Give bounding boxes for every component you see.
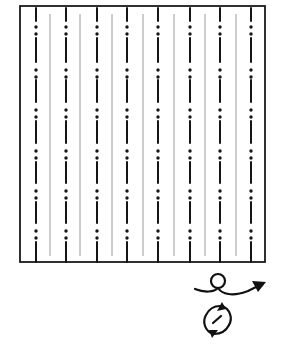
circular-arrows-icon [204, 302, 231, 338]
stitch-dot [95, 108, 98, 111]
stitch-dot [125, 32, 128, 35]
stitch-dot [218, 75, 221, 78]
stitch-dot [156, 75, 159, 78]
stitch-dot [156, 156, 159, 159]
stitch-dot [249, 68, 252, 71]
stitch-column [249, 8, 252, 262]
stitch-dot [156, 149, 159, 152]
stitch-dot [249, 25, 252, 28]
stitch-dot [95, 115, 98, 118]
stitch-dot [125, 75, 128, 78]
stitch-dot [34, 189, 37, 192]
stitch-dot [95, 189, 98, 192]
stitch-dot [249, 196, 252, 199]
stitch-dot [95, 149, 98, 152]
stitch-dot [188, 156, 191, 159]
stitch-dot [125, 236, 128, 239]
stitch-column [64, 8, 67, 262]
stitch-dot [95, 156, 98, 159]
stitch-dot [156, 115, 159, 118]
stitch-dot [64, 156, 67, 159]
stitch-dot [188, 108, 191, 111]
stitch-dot [125, 156, 128, 159]
stitch-dot [34, 75, 37, 78]
stitch-dot [95, 236, 98, 239]
stitch-dot [125, 108, 128, 111]
stitch-dot [218, 68, 221, 71]
stitch-dot [64, 189, 67, 192]
stitch-dot [95, 196, 98, 199]
stitch-dot [218, 32, 221, 35]
stitch-dot [218, 156, 221, 159]
stitch-dot [249, 75, 252, 78]
stitch-dot [125, 189, 128, 192]
stitch-dot [64, 196, 67, 199]
stitch-dot [95, 68, 98, 71]
stitch-dot [34, 156, 37, 159]
stitch-dot [34, 115, 37, 118]
stitch-dot [249, 108, 252, 111]
stitch-dot [188, 189, 191, 192]
stitch-dot [218, 189, 221, 192]
stitch-column [125, 8, 128, 262]
stitch-dot [64, 108, 67, 111]
stitch-dot [156, 32, 159, 35]
stitch-dot [249, 149, 252, 152]
stitch-dot [34, 229, 37, 232]
stitch-dot [64, 236, 67, 239]
stitch-dot [34, 196, 37, 199]
stitch-dot [188, 149, 191, 152]
stitch-dot [64, 25, 67, 28]
stitch-dot [218, 115, 221, 118]
stitch-dot [156, 189, 159, 192]
stitch-dot [218, 25, 221, 28]
stitch-dot [95, 75, 98, 78]
stitch-dot [218, 229, 221, 232]
stitch-dot [95, 229, 98, 232]
stitch-dot [125, 25, 128, 28]
stitch-dot [125, 115, 128, 118]
stitch-dot [64, 115, 67, 118]
stitch-dot [218, 236, 221, 239]
stitch-column [188, 8, 191, 262]
stitch-column [34, 8, 37, 262]
stitch-dot [34, 149, 37, 152]
stitch-dot [125, 196, 128, 199]
stitch-dot [249, 236, 252, 239]
stitch-dot [34, 108, 37, 111]
stitch-dot [64, 75, 67, 78]
stitch-dot [95, 25, 98, 28]
stitch-dot [218, 196, 221, 199]
stitch-dot [156, 196, 159, 199]
stitch-dot [34, 32, 37, 35]
stitch-chart-diagram [0, 0, 283, 353]
stitch-dot [218, 149, 221, 152]
stitch-dot [34, 68, 37, 71]
stitch-dot [156, 25, 159, 28]
stitch-dot [34, 236, 37, 239]
stitch-dot [249, 32, 252, 35]
stitch-dot [249, 229, 252, 232]
stitch-dot [188, 25, 191, 28]
twisted-loop-arrow-icon [195, 274, 266, 294]
stitch-dot [64, 68, 67, 71]
stitch-dot [249, 156, 252, 159]
stitch-dot [125, 229, 128, 232]
stitch-dot [34, 25, 37, 28]
stitch-dot [64, 149, 67, 152]
stitch-dot [125, 149, 128, 152]
stitch-dot [125, 68, 128, 71]
stitch-column [218, 8, 221, 262]
stitch-dot [188, 229, 191, 232]
stitch-dot [188, 32, 191, 35]
stitch-dot [156, 68, 159, 71]
stitch-dot [188, 115, 191, 118]
stitch-dot [156, 108, 159, 111]
stitch-dot [218, 108, 221, 111]
stitch-column [95, 8, 98, 262]
stitch-dot [188, 236, 191, 239]
stitch-dot [95, 32, 98, 35]
stitch-dot [156, 229, 159, 232]
stitch-dot [64, 32, 67, 35]
stitch-dot [64, 229, 67, 232]
